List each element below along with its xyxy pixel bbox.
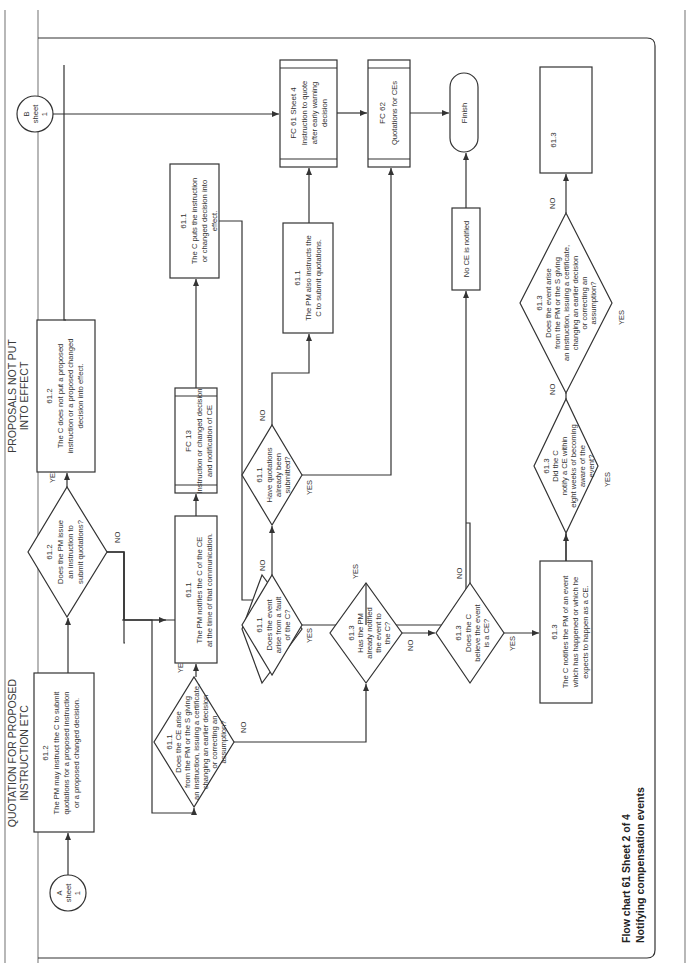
- finish-terminal[interactable]: Finish: [450, 73, 478, 152]
- node-text: of the C?: [283, 610, 292, 641]
- no-label: NO: [455, 568, 464, 579]
- no-label: NO: [239, 722, 248, 733]
- box-c-notifies[interactable]: 61.3 The C notifies the PM of an event w…: [540, 561, 592, 703]
- no-label: NO: [406, 640, 415, 651]
- node-ref: FC 13: [184, 430, 193, 452]
- node-text: at the time of that communication.: [205, 533, 214, 647]
- node-text: notify a CE within: [560, 437, 569, 496]
- node-text: Instruction to quote: [300, 81, 309, 146]
- svg-text:Notifying compensation events: Notifying compensation events: [634, 787, 646, 943]
- box-pm-may-instruct[interactable]: 61.2 The PM may instruct the C to submit…: [34, 673, 94, 832]
- node-text: eight weeks of becoming: [569, 424, 578, 508]
- node-text: Quotations for CEs: [390, 81, 399, 145]
- node-text: The PM may instruct the C to submit: [52, 691, 61, 815]
- node-text: The PM notifies the C of the CE: [195, 537, 204, 644]
- box-pm-also-instructs[interactable]: 61.1 The PM also instructs the C to subm…: [283, 223, 333, 333]
- box-no-ce-notified[interactable]: No CE is notified: [452, 208, 480, 290]
- connector-b[interactable]: B sheet 1: [17, 96, 53, 132]
- node-text: and notification of CE: [205, 405, 214, 477]
- yes-label: YES: [508, 636, 517, 651]
- node-text: aware of the: [578, 445, 587, 487]
- yes-label: YES: [603, 472, 612, 487]
- node-text: or correcting an: [210, 716, 219, 769]
- node-text: an instruction, issuing a certificate,: [192, 684, 201, 800]
- caption: Flow chart 61 Sheet 2 of 4 Notifying com…: [620, 787, 646, 943]
- fc61-box[interactable]: FC 61 Sheet 4 Instruction to quote after…: [280, 60, 337, 167]
- svg-text:INSTRUCTION ETC: INSTRUCTION ETC: [18, 705, 30, 801]
- node-text: or changed decision into: [200, 180, 209, 262]
- node-text: an instruction to: [66, 525, 75, 579]
- node-text: decision: [320, 99, 329, 127]
- node-text: assumption?: [589, 281, 598, 324]
- no-label: NO: [258, 560, 267, 571]
- node-ref: 61.2: [41, 745, 50, 761]
- node-ref: 61.3: [549, 132, 558, 148]
- node-text: decision into effect.: [76, 364, 85, 429]
- node-text: the C?: [383, 622, 392, 644]
- no-label: NO: [548, 198, 557, 209]
- node-ref: 61.2: [45, 544, 54, 560]
- decision-fault-of-c-shape[interactable]: 61.1 Does the event arise from a fault o…: [242, 575, 302, 675]
- flowchart-canvas: A sheet 1 B sheet 1 C sheet 3 61.2 The P…: [0, 0, 697, 973]
- node-text: changing an earlier decision: [571, 256, 580, 351]
- yes-label: YES: [305, 480, 314, 495]
- finish-label: Finish: [460, 103, 469, 123]
- node-ref: 61.3: [535, 295, 544, 311]
- svg-text:PROPOSALS NOT PUT: PROPOSALS NOT PUT: [6, 339, 18, 453]
- node-ref: 61.1: [184, 582, 193, 598]
- node-text: expects to happen as a CE.: [581, 585, 590, 678]
- node-ref: FC 62: [378, 102, 387, 124]
- node-text: or a proposed changed decision.: [72, 698, 81, 808]
- section-label-quotation-proposed: QUOTATION FOR PROPOSED INSTRUCTION ETC: [6, 678, 30, 827]
- node-text: the event to: [374, 613, 383, 653]
- node-text: The C does not put a proposed: [56, 344, 65, 449]
- node-ref: 61.1: [255, 467, 264, 483]
- node-text: after early warning: [310, 82, 319, 144]
- node-text: changing an earlier decision: [201, 695, 210, 790]
- node-text: an instruction, issuing a certificate,: [562, 245, 571, 361]
- fc13-box[interactable]: FC 13 Instruction or changed decision an…: [175, 388, 217, 494]
- decision-ce-arise-pm-or-s[interactable]: 61.1 Does the CE arise from the PM or th…: [154, 677, 234, 807]
- decision-quotations-submitted[interactable]: 61.1 Have quotations already been submit…: [242, 425, 302, 525]
- node-text: submit quotations?: [76, 520, 85, 584]
- connector-a-num: 1: [73, 891, 82, 895]
- svg-text:INTO EFFECT: INTO EFFECT: [18, 361, 30, 430]
- yes-label: YES: [305, 628, 314, 643]
- connector-b-letter: B: [22, 111, 31, 116]
- connector-a[interactable]: A sheet 1: [50, 875, 86, 911]
- node-text: quotations for a proposed instruction: [62, 692, 71, 815]
- node-text: instruction or a proposed changed: [66, 339, 75, 454]
- node-text: C to submit quotations.: [314, 239, 323, 317]
- box-c-not-entitled[interactable]: 61.3: [540, 67, 592, 173]
- node-ref: 61.3: [454, 625, 463, 641]
- node-ref: 61.3: [550, 624, 559, 640]
- node-ref: 61.3: [347, 625, 356, 641]
- node-text: effect.: [210, 211, 219, 232]
- node-text: already been: [274, 453, 283, 497]
- box-c-does-not-put[interactable]: 61.2 The C does not put a proposed instr…: [37, 320, 95, 472]
- decision-eight-weeks[interactable]: 61.3 Did the C notify a CE within eight …: [534, 399, 598, 533]
- node-text: submitted?: [283, 456, 292, 493]
- decision-c-believes-ce[interactable]: 61.3 Does the C believe the event is a C…: [436, 583, 504, 683]
- decision-event-arise-pm-or-s[interactable]: 61.3 Does the event arise from the PM or…: [520, 213, 612, 393]
- connector-a-word: sheet: [64, 883, 73, 902]
- box-c-puts-into-effect[interactable]: 61.1 The C puts the instruction or chang…: [170, 164, 219, 278]
- decision-pm-issue-instruction[interactable]: 61.2 Does the PM issue an instruction to…: [28, 487, 107, 617]
- no-ce-label: No CE is notified: [462, 221, 471, 278]
- node-text: Does the PM issue: [56, 520, 65, 584]
- box-pm-notifies[interactable]: 61.1 The PM notifies the C of the CE at …: [175, 516, 217, 663]
- node-text: Instruction or changed decision: [195, 388, 204, 493]
- node-text: Does the event arise: [544, 268, 553, 338]
- node-text: assumption?: [219, 720, 228, 763]
- node-text: Have quotations: [265, 447, 274, 502]
- node-ref: 61.1: [179, 213, 188, 229]
- node-text: event?: [587, 455, 596, 478]
- fc62-box[interactable]: FC 62 Quotations for CEs: [368, 60, 410, 167]
- node-text: from the PM or the S giving: [553, 257, 562, 349]
- node-text: which has happened or which he: [571, 577, 580, 689]
- node-text: from the PM or the S giving: [183, 696, 192, 788]
- svg-text:Flow chart 61 Sheet 2 of 4: Flow chart 61 Sheet 2 of 4: [620, 814, 632, 943]
- svg-text:QUOTATION FOR PROPOSED: QUOTATION FOR PROPOSED: [6, 678, 18, 827]
- node-text: Did the C: [551, 450, 560, 482]
- section-label-proposals-not-put: PROPOSALS NOT PUT INTO EFFECT: [6, 339, 30, 453]
